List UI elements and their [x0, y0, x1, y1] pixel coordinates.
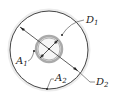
cross-section-diagram: D1 D2 A1 A2: [0, 0, 116, 98]
label-d2: D2: [95, 76, 109, 89]
a1-dot: [33, 50, 35, 52]
a2-dot: [46, 88, 48, 90]
label-d1: D1: [85, 14, 99, 27]
center-mark: [48, 48, 50, 50]
a2-leader: [47, 79, 54, 89]
label-a1: A1: [15, 55, 28, 68]
label-a2: A2: [54, 72, 67, 85]
a1-leader: [28, 51, 34, 61]
d1-dot: [61, 34, 63, 36]
